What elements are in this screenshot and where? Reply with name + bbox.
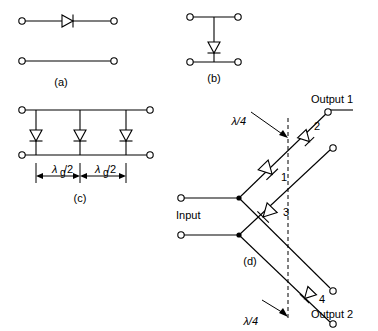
wire-d-branch-up-2 <box>239 150 330 235</box>
diode-d2-label: 2 <box>314 120 320 132</box>
arrow-c-left-1 <box>36 173 43 179</box>
arrow-c-right-1 <box>80 173 87 179</box>
panel-a-caption: (a) <box>54 76 67 88</box>
diode-c-1 <box>30 110 43 155</box>
output2-label: Output 2 <box>311 308 353 320</box>
dimension-c-right-div: /2 <box>107 163 116 175</box>
terminal-c-bottom-left <box>19 152 25 158</box>
diode-b-triangle <box>208 42 220 53</box>
diode-d4-label: 4 <box>319 293 325 305</box>
circuit-diagram-svg: (a) (b) <box>0 0 378 331</box>
terminal-b-bottom-left <box>187 59 193 65</box>
terminal-b-top-left <box>187 14 193 20</box>
diode-c1-triangle <box>30 130 42 141</box>
panel-d: 1 2 3 4 λ/4 λ/4 <box>176 93 353 327</box>
terminal-d-out2-bottom <box>330 321 336 327</box>
panel-b: (b) <box>187 14 241 84</box>
diode-a-triangle <box>62 15 73 27</box>
terminal-a-top-right <box>111 18 117 24</box>
diode-c-3 <box>120 110 133 155</box>
diode-d2-triangle <box>298 130 314 146</box>
quarter-wave-top-arrow <box>279 130 288 138</box>
dimension-c-right-lambda: λ <box>94 163 100 175</box>
terminal-c-top-left <box>19 107 25 113</box>
quarter-wave-top-label: λ/4 <box>230 115 246 127</box>
panel-b-caption: (b) <box>207 72 220 84</box>
quarter-wave-bottom-arrow <box>279 308 288 317</box>
terminal-b-bottom-right <box>235 59 241 65</box>
input-label: Input <box>176 209 200 221</box>
terminal-a-bottom-right <box>111 58 117 64</box>
terminal-a-top-left <box>19 18 25 24</box>
output1-label: Output 1 <box>311 93 353 105</box>
dimension-c-left-div: /2 <box>64 163 73 175</box>
diode-d1-label: 1 <box>281 171 287 183</box>
terminal-d-input-bottom <box>178 232 184 238</box>
arrow-c-left-2 <box>73 173 80 179</box>
quarter-wave-top-line <box>251 112 285 136</box>
diode-d-2 <box>297 129 314 146</box>
dimension-c-left-lambda: λ <box>51 163 57 175</box>
diode-c-2 <box>74 110 87 155</box>
terminal-c-bottom-right <box>147 152 153 158</box>
terminal-c-top-right <box>147 107 153 113</box>
quarter-wave-bottom-group: λ/4 <box>242 300 288 327</box>
terminal-d-out1-top <box>325 109 331 115</box>
terminal-d-input-top <box>178 195 184 201</box>
figure-container: (a) (b) <box>0 0 378 331</box>
terminal-d-out2-top <box>330 288 336 294</box>
quarter-wave-bottom-label: λ/4 <box>242 315 258 327</box>
arrow-c-right-2 <box>119 173 126 179</box>
terminal-d-out1-bottom <box>330 145 336 151</box>
quarter-wave-top-group: λ/4 <box>230 112 288 138</box>
diode-c2-triangle <box>74 130 86 141</box>
panel-a: (a) <box>19 15 117 89</box>
terminal-a-bottom-left <box>19 58 25 64</box>
panel-c: λ g /2 λ g /2 (c) <box>19 107 153 204</box>
panel-c-caption: (c) <box>74 192 87 204</box>
dimension-c-left <box>36 163 80 183</box>
diode-d4-triangle <box>300 287 316 303</box>
diode-c3-triangle <box>120 130 132 141</box>
panel-d-caption: (d) <box>243 255 256 267</box>
terminal-b-top-right <box>235 14 241 20</box>
